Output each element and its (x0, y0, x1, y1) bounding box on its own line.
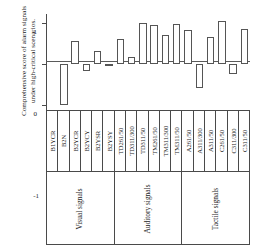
y-axis-title: Comprehensive score of alarm signals und… (14, 0, 44, 122)
bar-C311-300 (229, 64, 236, 74)
category-cell-A261-50: A261/50 (182, 111, 193, 171)
plot-area: 10-1 (46, 14, 250, 110)
group-cell-visual-signals: Visual signals (47, 172, 115, 245)
category-label: TM311/50 (173, 127, 180, 154)
category-label: C311/300 (229, 129, 236, 154)
category-cell-A311-50: A311/50 (205, 111, 216, 171)
category-label: B2YSY (105, 131, 112, 151)
category-cell-B2YCY: B2YCY (81, 111, 92, 171)
chart-figure: Comprehensive score of alarm signals und… (0, 0, 267, 248)
y-axis-title-line-1: Comprehensive score of alarm signals (20, 6, 28, 116)
category-cell-B2YCR: B2YCR (70, 111, 81, 171)
category-label: B1YCR (49, 131, 56, 152)
group-label: Visual signals (76, 188, 84, 229)
y-axis-title-text: Comprehensive score of alarm signals und… (20, 6, 38, 116)
category-cell-TD261-50: TD261/50 (115, 111, 126, 171)
category-label: A311/300 (195, 128, 202, 153)
category-label: A311/50 (207, 130, 214, 152)
bar-TD311-300 (128, 57, 135, 64)
category-label: B2N (60, 135, 67, 147)
signal-group-row: Visual signalsAuditory signalsTactile si… (47, 172, 249, 245)
category-cell-A311-300: A311/300 (194, 111, 205, 171)
group-label: Tactile signals (212, 187, 220, 229)
category-label: TM311/300 (161, 126, 168, 156)
category-cell-C311-300: C311/300 (228, 111, 239, 171)
bar-TM311-50 (173, 24, 180, 64)
bar-TD261-50 (117, 39, 124, 64)
category-cell-C311-50: C311/50 (239, 111, 249, 171)
category-cell-TD311-300: TD311/300 (126, 111, 137, 171)
category-label: TD311/50 (139, 128, 146, 154)
category-cell-B2YSY: B2YSY (103, 111, 114, 171)
category-label: TD311/300 (128, 126, 135, 155)
category-cell-TM261-50: TM261/50 (149, 111, 160, 171)
category-label: C311/50 (240, 130, 247, 152)
bar-C261-50 (218, 21, 225, 64)
bar-B2YSR (94, 51, 101, 64)
bar-C311-50 (241, 29, 248, 64)
category-label: B2YCR (71, 131, 78, 152)
y-tick-0: 1 (42, 23, 46, 24)
bar-A261-50 (184, 30, 191, 64)
category-cell-C261-50: C261/50 (216, 111, 227, 171)
bar-B2YCR (71, 41, 78, 64)
bar-B2YSY (105, 64, 112, 66)
group-label: Auditory signals (144, 184, 152, 233)
bar-A311-300 (196, 64, 203, 88)
category-cell-B2N: B2N (58, 111, 69, 171)
category-table: B1YCRB2NB2YCRB2YCYB2YSRB2YSYTD261/50TD31… (46, 110, 250, 245)
category-label: A261/50 (184, 130, 191, 152)
bar-series (47, 14, 250, 110)
category-cell-B1YCR: B1YCR (47, 111, 58, 171)
category-label: TM261/50 (150, 127, 157, 154)
category-label: B2YSR (94, 131, 101, 151)
category-cell-TM311-50: TM311/50 (171, 111, 182, 171)
bar-TD311-50 (139, 23, 146, 64)
category-cell-B2YSR: B2YSR (92, 111, 103, 171)
group-cell-auditory-signals: Auditory signals (115, 172, 183, 245)
category-label: C261/50 (218, 130, 225, 152)
y-axis-title-line-2: under high-critical scenarios. (29, 6, 38, 116)
bar-B2N (60, 64, 67, 105)
y-tick-label-1: 0 (34, 111, 38, 118)
category-cell-TD311-50: TD311/50 (137, 111, 148, 171)
bar-TM311-300 (162, 35, 169, 64)
y-tick-1: 0 (42, 64, 46, 65)
bar-A311-50 (207, 37, 214, 64)
y-tick-label-2: -1 (33, 193, 39, 200)
signal-code-row: B1YCRB2NB2YCRB2YCYB2YSRB2YSYTD261/50TD31… (47, 111, 249, 172)
category-label: B2YCY (82, 130, 89, 151)
category-label: TD261/50 (116, 128, 123, 154)
group-cell-tactile-signals: Tactile signals (182, 172, 249, 245)
y-tick-label-0: 1 (34, 29, 38, 36)
category-cell-TM311-300: TM311/300 (160, 111, 171, 171)
y-tick-2: -1 (42, 105, 46, 106)
bar-TM261-50 (150, 25, 157, 64)
bar-B2YCY (83, 64, 90, 71)
